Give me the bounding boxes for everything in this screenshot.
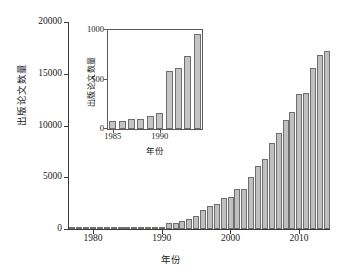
bar — [241, 189, 247, 229]
main-x-axis-label: 年份 — [0, 252, 342, 266]
y-axis-tick-mark — [64, 177, 68, 178]
x-axis-tick-label: 1990 — [152, 234, 171, 244]
y-axis-tick-label: 1000 — [87, 25, 104, 34]
bar — [138, 227, 144, 229]
inset-x-axis-label: 年份 — [107, 144, 203, 156]
bar — [228, 197, 234, 229]
bar — [214, 204, 220, 229]
bar — [269, 143, 275, 229]
bar — [175, 68, 182, 129]
bar — [76, 227, 82, 229]
y-axis-tick-label: 10000 — [38, 121, 62, 131]
bar — [262, 159, 268, 229]
inset-bar-series — [108, 30, 202, 129]
bar — [69, 227, 75, 229]
x-axis-tick-label: 1980 — [84, 234, 103, 244]
bar — [221, 198, 227, 229]
y-axis-tick-label: 0 — [57, 224, 62, 234]
bar — [97, 227, 103, 229]
main-y-axis-label: 出版论文数量 — [14, 63, 28, 126]
y-axis-tick-label: 15000 — [38, 69, 62, 79]
bar — [90, 227, 96, 229]
bar — [283, 120, 289, 229]
bar — [289, 112, 295, 229]
bar — [156, 113, 163, 129]
bar — [111, 227, 117, 229]
y-axis-tick-label: 5000 — [43, 173, 62, 183]
bar — [179, 221, 185, 229]
bar — [173, 223, 179, 229]
bar — [137, 119, 144, 129]
inset-chart: 05001000 19851990 出版论文数量 年份 — [107, 29, 203, 130]
main-x-axis-line — [68, 229, 330, 230]
bar — [200, 210, 206, 229]
y-axis-tick-mark — [64, 22, 68, 23]
bar — [147, 116, 154, 129]
y-axis-tick-mark — [104, 29, 107, 30]
bar — [207, 206, 213, 229]
bar — [152, 227, 158, 229]
bar — [159, 227, 165, 229]
bar — [145, 227, 151, 229]
bar — [248, 177, 254, 229]
publication-count-bar-chart-figure: 05000100001500020000 1980199020002010 出版… — [0, 0, 342, 278]
x-axis-tick-label: 1985 — [104, 132, 121, 141]
bar — [109, 121, 116, 129]
bar — [119, 121, 126, 129]
bar — [124, 227, 130, 229]
inset-y-axis-label: 出版论文数量 — [85, 57, 96, 107]
bar — [303, 93, 309, 229]
bar — [276, 133, 282, 229]
bar — [166, 223, 172, 229]
bar — [324, 51, 330, 229]
bar — [128, 119, 135, 129]
bar — [166, 71, 173, 129]
y-axis-tick-mark — [104, 79, 107, 80]
bar — [255, 166, 261, 229]
bar — [234, 189, 240, 229]
bar — [186, 219, 192, 229]
x-axis-tick-label: 2000 — [221, 234, 240, 244]
x-axis-tick-label: 2010 — [290, 234, 309, 244]
bar — [194, 34, 201, 129]
bar — [317, 55, 323, 229]
y-axis-tick-label: 20000 — [38, 17, 62, 27]
y-axis-tick-mark — [64, 126, 68, 127]
bar — [83, 227, 89, 229]
bar — [131, 227, 137, 229]
bar — [104, 227, 110, 229]
bar — [310, 68, 316, 229]
y-axis-tick-mark — [64, 74, 68, 75]
bar — [184, 56, 191, 129]
y-axis-tick-mark — [104, 128, 107, 129]
bar — [296, 94, 302, 229]
y-axis-tick-mark — [64, 229, 68, 230]
bar — [193, 216, 199, 229]
bar — [118, 227, 124, 229]
x-axis-tick-label: 1990 — [151, 132, 168, 141]
